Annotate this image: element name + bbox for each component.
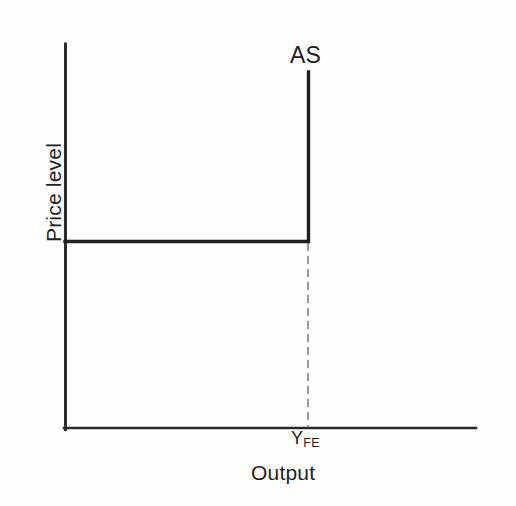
yfe-subscript: FE	[303, 436, 320, 450]
as-supply-curve	[65, 72, 309, 242]
yfe-tick-label: YFE	[291, 429, 320, 449]
as-curve-label: AS	[290, 44, 321, 67]
y-axis-title: Price level	[43, 133, 64, 253]
as-curve-figure: AS Price level Output YFE	[0, 0, 516, 506]
x-axis-title: Output	[251, 462, 315, 483]
plot-area	[0, 0, 516, 506]
yfe-base-letter: Y	[291, 428, 303, 448]
